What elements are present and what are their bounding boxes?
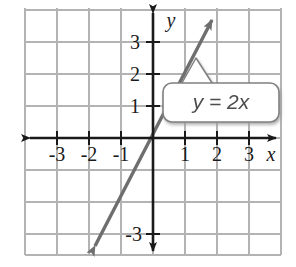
x-axis-tick-labels: -3 -2 -1 1 2 3 [49,143,254,165]
x-tick-label-2: 2 [212,143,222,165]
x-tick-label-neg2: -2 [81,143,98,165]
y-tick-label-neg3: -3 [125,223,142,245]
x-tick-label-1: 1 [180,143,190,165]
y-tick-label-1: 1 [130,95,140,117]
callout-equation-text: y = 2x [191,90,251,113]
axes [30,13,276,251]
x-axis-name-label: x [266,143,276,165]
equation-callout[interactable]: y = 2x [163,58,279,122]
x-tick-label-neg3: -3 [49,143,66,165]
coordinate-plane-figure: -3 -2 -1 1 2 3 3 2 1 -3 x y y = 2x [0,0,296,267]
y-tick-label-2: 2 [130,63,140,85]
y-axis-name-label: y [165,9,176,32]
x-tick-label-neg1: -1 [113,143,130,165]
x-tick-label-3: 3 [244,143,254,165]
y-tick-label-3: 3 [130,31,140,53]
graph-canvas: -3 -2 -1 1 2 3 3 2 1 -3 x y y = 2x [0,0,296,267]
